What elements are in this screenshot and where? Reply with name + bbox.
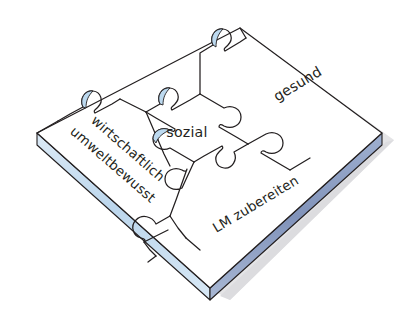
puzzle-diagram: sozial gesund wirtschaftlich umweltbewus… <box>0 0 414 310</box>
board-top-face <box>37 28 382 288</box>
puzzle-illustration: sozial gesund wirtschaftlich umweltbewus… <box>0 0 414 310</box>
label-sozial: sozial <box>166 124 207 140</box>
